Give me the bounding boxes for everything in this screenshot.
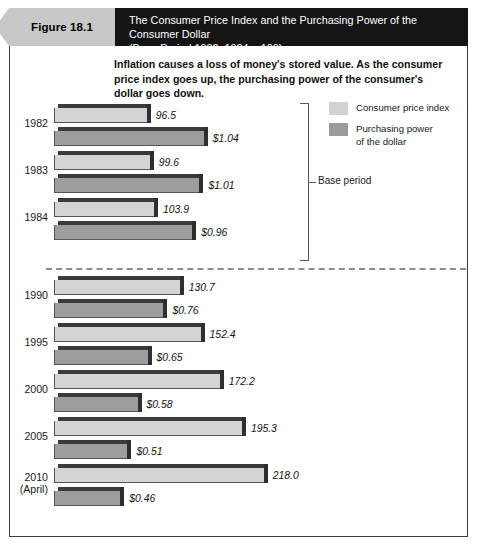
bar-front-face [54,108,147,123]
bar-value-ppd-6: $0.51 [136,444,162,459]
bar-ppd-1995 [54,346,148,361]
bar-right-face [154,198,158,217]
bar-front-face [54,202,154,217]
y-axis-label-line2: (April) [0,483,48,495]
bar-front-face [54,421,242,436]
bar-front-face [54,468,264,483]
bar-cpi-2000 [54,370,220,385]
y-axis-label-line1: 1995 [24,336,48,348]
base-period-divider [46,268,466,270]
bar-value-cpi-3: 130.7 [189,280,215,295]
y-axis-label-line1: 2005 [24,430,48,442]
bar-value-ppd-5: $0.58 [147,397,173,412]
bar-ppd-1982 [54,127,204,142]
bar-cpi-1982 [54,104,147,119]
bar-front-face [54,225,192,240]
bar-right-face [242,417,246,436]
bar-value-ppd-1: $1.01 [208,178,234,193]
bar-right-face [163,299,167,318]
figure-number-tag: Figure 18.1 [9,8,115,46]
bar-ppd-2005 [54,440,127,455]
bar-right-face [192,221,196,240]
bar-front-face [54,491,120,506]
bar-front-face [54,374,220,389]
y-axis-label-line1: 2010 [24,471,48,483]
bar-ppd-1990 [54,299,163,314]
bar-value-cpi-6: 195.3 [251,421,277,436]
bar-value-cpi-0: 96.5 [156,108,176,123]
base-period-label: Base period [318,175,371,186]
bar-value-ppd-3: $0.76 [172,303,198,318]
y-axis-label-2010-april-: 2010(April) [0,471,48,495]
bar-front-face [54,350,148,365]
bar-right-face [120,487,124,506]
bar-value-cpi-5: 172.2 [229,374,255,389]
bar-front-face [54,397,138,412]
bar-front-face [54,131,204,146]
bar-value-ppd-2: $0.96 [201,225,227,240]
bar-value-cpi-2: 103.9 [163,202,189,217]
figure-header: Figure 18.1 The Consumer Price Index and… [9,8,468,46]
bar-cpi-2010-april- [54,464,264,479]
chart-plot-area: Base period 198296.5$1.04198399.6$1.0119… [10,46,467,535]
bar-front-face [54,178,199,193]
base-period-bracket-tick [309,182,316,183]
bar-right-face [199,174,203,193]
bar-cpi-1995 [54,323,201,338]
bar-value-cpi-7: 218.0 [273,468,299,483]
bar-front-face [54,155,150,170]
y-axis-label-line1: 1990 [24,289,48,301]
bar-ppd-2010-april- [54,487,120,502]
y-axis-label-line1: 2000 [24,383,48,395]
y-axis-label-1990: 1990 [0,289,48,301]
bar-right-face [201,323,205,342]
base-period-bracket [300,103,309,261]
y-axis-label-1984: 1984 [0,211,48,223]
y-axis-label-line1: 1984 [24,211,48,223]
bar-right-face [204,127,208,146]
bar-cpi-1984 [54,198,154,213]
bar-front-face [54,444,127,459]
bar-cpi-1983 [54,151,150,166]
bar-right-face [147,104,151,123]
bar-value-ppd-4: $0.65 [157,350,183,365]
y-axis-label-line1: 1983 [24,164,48,176]
bar-right-face [138,393,142,412]
bar-value-ppd-7: $0.46 [129,491,155,506]
y-axis-label-1982: 1982 [0,117,48,129]
figure-title: The Consumer Price Index and the Purchas… [115,8,468,46]
bar-front-face [54,327,201,342]
bar-cpi-2005 [54,417,242,432]
y-axis-label-2005: 2005 [0,430,48,442]
y-axis-label-1983: 1983 [0,164,48,176]
bar-right-face [150,151,154,170]
figure-title-line1: The Consumer Price Index and the Purchas… [129,14,417,40]
bar-right-face [180,276,184,295]
bar-right-face [220,370,224,389]
bar-value-ppd-0: $1.04 [213,131,239,146]
bar-cpi-1990 [54,276,180,291]
figure-body-panel: Inflation causes a loss of money's store… [9,46,468,537]
bar-ppd-1983 [54,174,199,189]
bar-front-face [54,280,180,295]
y-axis-label-1995: 1995 [0,336,48,348]
bar-ppd-2000 [54,393,138,408]
y-axis-label-2000: 2000 [0,383,48,395]
bar-value-cpi-4: 152.4 [210,327,236,342]
y-axis-label-line1: 1982 [24,117,48,129]
bar-value-cpi-1: 99.6 [159,155,179,170]
bar-ppd-1984 [54,221,192,236]
bar-right-face [148,346,152,365]
bar-right-face [264,464,268,483]
figure-number-label: Figure 18.1 [31,21,93,33]
bar-front-face [54,303,163,318]
bar-right-face [127,440,131,459]
